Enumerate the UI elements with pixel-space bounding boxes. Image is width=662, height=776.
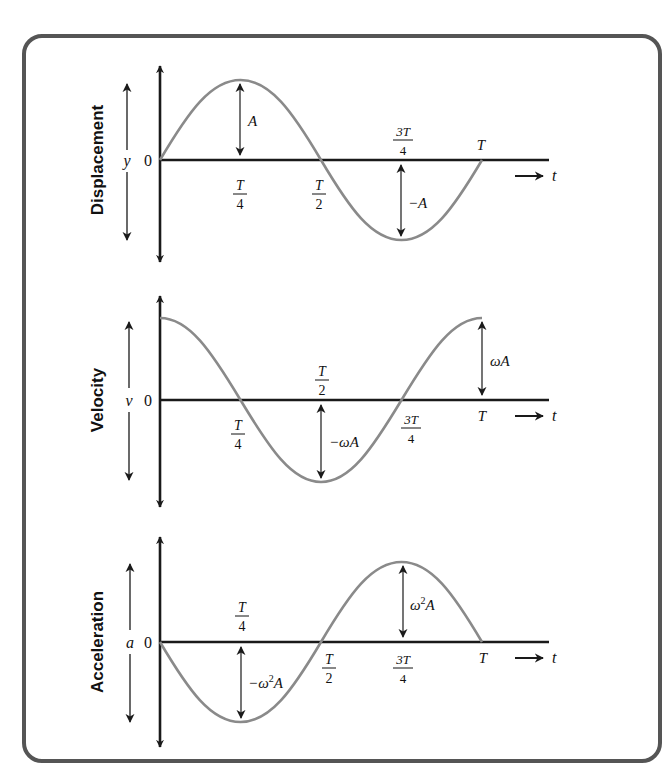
time-label: t (552, 649, 557, 666)
origin-zero: 0 (144, 392, 152, 409)
accel-amplitude-label: ω2A (410, 595, 436, 613)
velocity-title: Velocity (88, 367, 107, 432)
displacement-title: Displacement (88, 104, 107, 215)
svg-text:4: 4 (400, 143, 407, 158)
velocity-panel: Velocity v 0 −ωA ωA T 4 T 2 3T 4 T t (88, 296, 557, 507)
tick-t: T (478, 408, 488, 424)
tick-3t-over-4: 3T 4 (401, 412, 421, 446)
tick-t-over-4: T 4 (233, 178, 247, 212)
svg-text:3T: 3T (403, 412, 419, 427)
svg-text:T: T (315, 178, 324, 193)
neg-velocity-amplitude-label: −ωA (329, 434, 360, 450)
acceleration-symbol: a (126, 634, 134, 651)
tick-t-over-2: T 2 (322, 652, 336, 686)
svg-text:4: 4 (237, 197, 244, 212)
svg-text:4: 4 (235, 437, 242, 452)
tick-t-over-4: T 4 (235, 600, 249, 634)
origin-zero: 0 (144, 152, 152, 169)
tick-3t-over-4: 3T 4 (393, 652, 413, 686)
origin-zero: 0 (144, 634, 152, 651)
velocity-symbol: v (125, 392, 133, 409)
tick-t-over-2: T 2 (315, 364, 329, 398)
svg-text:2: 2 (326, 671, 333, 686)
neg-amplitude-label: −A (408, 195, 428, 211)
svg-text:2: 2 (319, 383, 326, 398)
tick-t: T (479, 650, 489, 666)
svg-text:T: T (234, 418, 243, 433)
time-label: t (552, 167, 557, 184)
time-label: t (552, 407, 557, 424)
displacement-panel: Displacement y 0 A −A T 4 T 2 3T 4 (88, 66, 557, 262)
svg-text:4: 4 (408, 431, 415, 446)
acceleration-title: Acceleration (88, 591, 107, 693)
svg-text:3T: 3T (395, 652, 411, 667)
tick-t-over-4: T 4 (231, 418, 245, 452)
tick-3t-over-4: 3T 4 (393, 124, 413, 158)
svg-text:T: T (325, 652, 334, 667)
neg-accel-amplitude-label: −ω2A (248, 673, 284, 691)
svg-text:T: T (318, 364, 327, 379)
tick-t-over-2: T 2 (312, 178, 326, 212)
acceleration-panel: Acceleration a 0 −ω2A ω2A T 4 T 2 3T 4 T… (88, 537, 557, 747)
svg-text:3T: 3T (395, 124, 411, 139)
displacement-symbol: y (121, 152, 131, 170)
tick-t: T (477, 137, 487, 153)
velocity-amplitude-label: ωA (490, 353, 511, 369)
svg-text:T: T (236, 178, 245, 193)
svg-text:4: 4 (239, 619, 246, 634)
svg-text:2: 2 (316, 197, 323, 212)
amplitude-label: A (247, 113, 258, 129)
svg-text:4: 4 (400, 671, 407, 686)
svg-text:T: T (238, 600, 247, 615)
